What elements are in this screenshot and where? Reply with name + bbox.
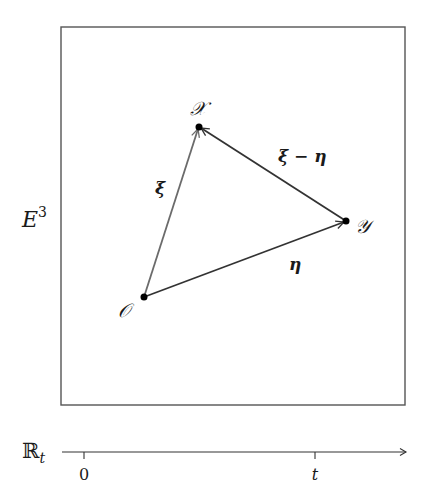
point-y [343,218,350,225]
vector-label-xi: ξ [155,178,166,198]
point-label-x: 𝒳 [190,97,212,119]
vector-label-xi-minus-eta: ξ − η [278,146,327,166]
point-label-y: 𝒴 [355,215,375,237]
vector-xi-minus-eta [201,128,346,221]
point-o [141,294,148,301]
point-x [196,124,203,131]
time-axis-subscript: t [39,450,45,466]
space-frame [61,27,405,405]
time-axis-label: ℝt [22,439,45,466]
space-label-superscript: 3 [38,204,47,220]
time-axis-tick-label-t: t [312,465,319,484]
point-label-o: 𝒪 [118,299,135,321]
vector-label-eta: η [289,254,301,274]
spacetime-diagram: E3 𝒪 𝒳 𝒴 ξ η ξ − η ℝt 0 t [0,0,423,484]
vector-xi [144,129,198,297]
space-label: E3 [21,204,47,232]
vector-eta [144,222,344,297]
time-axis-tick-label-0: 0 [79,465,89,484]
